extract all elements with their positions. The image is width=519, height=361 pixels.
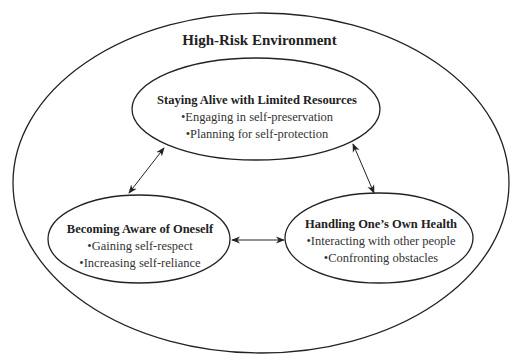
node-top: Staying Alive with Limited Resources •En… [132,93,382,144]
node-right-title: Handling One’s Own Health [305,217,457,232]
node-left-title: Becoming Aware of Oneself [67,222,213,237]
node-right-bullet-1: •Interacting with other people [306,234,455,249]
node-top-bullet-2: •Planning for self-protection [186,127,329,142]
node-left-bullet-1: •Gaining self-respect [87,239,192,254]
container-label: High-Risk Environment [0,33,519,48]
edge-top-left-arrow [129,148,164,193]
edge-top-right-arrow [353,144,374,193]
node-right-bullet-2: •Confronting obstacles [324,251,438,266]
node-top-title: Staying Alive with Limited Resources [157,93,357,108]
node-left-bullet-2: •Increasing self-reliance [79,256,200,271]
node-top-bullet-1: •Engaging in self-preservation [181,110,333,125]
node-right: Handling One’s Own Health •Interacting w… [287,217,475,268]
node-left: Becoming Aware of Oneself •Gaining self-… [48,222,232,273]
diagram-canvas [0,0,519,361]
outer-environment-ellipse [13,13,509,353]
